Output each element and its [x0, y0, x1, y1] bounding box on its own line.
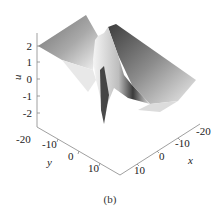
x-tick-10: 10	[134, 164, 146, 176]
y-axis-label: y	[46, 156, 52, 168]
z-tick-1: 1	[27, 56, 33, 68]
surface-plot: 2 1 0 -1 -2 u -20 -10 0 10 y -2	[0, 0, 220, 214]
x-tick-0: 0	[159, 150, 165, 162]
x-tick-neg20: -20	[196, 125, 211, 137]
x-axis-label: x	[187, 154, 193, 166]
y-tick-10: 10	[88, 162, 100, 174]
z-tick-neg1: -1	[23, 90, 32, 102]
y-tick-neg10: -10	[42, 138, 57, 150]
y-tick-0: 0	[68, 150, 74, 162]
z-tick-neg2: -2	[23, 107, 32, 119]
x-axis: -20 -10 0 10 x	[120, 124, 211, 176]
z-axis: 2 1 0 -1 -2 u	[11, 33, 40, 127]
surface	[38, 15, 196, 124]
z-tick-0: 0	[27, 73, 33, 85]
y-tick-neg20: -20	[16, 133, 31, 145]
subfigure-caption: (b)	[0, 193, 220, 205]
x-tick-neg10: -10	[175, 137, 190, 149]
y-axis: -20 -10 0 10 y	[16, 127, 120, 175]
z-axis-label: u	[11, 74, 23, 80]
z-tick-2: 2	[27, 40, 33, 52]
